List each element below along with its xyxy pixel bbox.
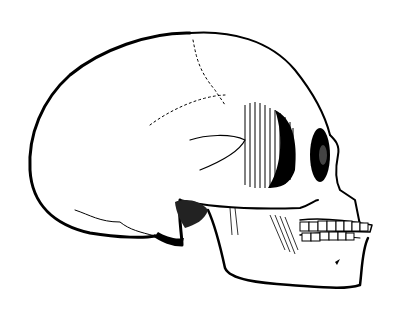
illustration-canvas [0, 0, 395, 327]
skull-illustration [0, 0, 395, 327]
cranium-outline [30, 33, 190, 237]
